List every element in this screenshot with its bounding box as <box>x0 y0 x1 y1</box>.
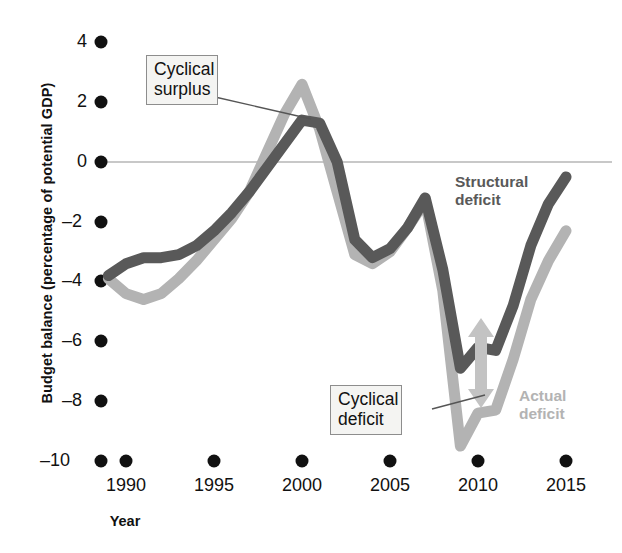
series-label-structural-line1: Structural <box>455 173 528 191</box>
series-label-actual-line1: Actual <box>519 387 566 405</box>
chart-container: 4 2 0 –2 –4 –6 –8 –10 1990 1995 2000 200… <box>0 0 622 553</box>
series-line-structural-deficit <box>108 120 566 368</box>
callout-cyclical-deficit-line2: deficit <box>338 410 394 430</box>
x-tick-label: 2000 <box>267 475 337 496</box>
x-tick-label: 2015 <box>531 475 601 496</box>
x-axis-tick-dots <box>120 455 573 468</box>
y-tick-label: –10 <box>28 450 70 471</box>
callout-cyclical-surplus: Cyclical surplus <box>146 55 218 105</box>
series-label-actual-deficit: Actual deficit <box>519 387 566 422</box>
callout-cyclical-deficit-line1: Cyclical <box>338 390 394 410</box>
y-axis-tick-dots <box>95 36 108 468</box>
x-tick-label: 1990 <box>91 475 161 496</box>
callout-cyclical-surplus-line1: Cyclical <box>154 60 210 80</box>
series-label-actual-line2: deficit <box>519 405 566 423</box>
series-label-structural-deficit: Structural deficit <box>455 173 528 208</box>
x-axis-title: Year <box>70 513 180 529</box>
y-tick-label: 4 <box>45 31 87 52</box>
series-label-structural-line2: deficit <box>455 191 528 209</box>
y-axis-title: Budget balance (percentage of potential … <box>39 78 55 408</box>
chart-plot-area <box>0 0 622 553</box>
x-tick-label: 2005 <box>355 475 425 496</box>
callout-cyclical-surplus-line2: surplus <box>154 80 210 100</box>
x-tick-label: 2010 <box>443 475 513 496</box>
callout-cyclical-deficit: Cyclical deficit <box>330 385 402 435</box>
x-tick-label: 1995 <box>179 475 249 496</box>
